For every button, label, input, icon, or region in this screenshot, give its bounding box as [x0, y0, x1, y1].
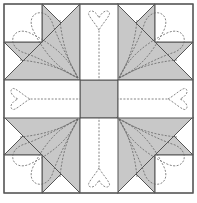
- corner-unit-top-right: [117, 4, 193, 80]
- corner-unit-bottom-right: [117, 117, 193, 193]
- corner-unit-top-left: [4, 4, 80, 80]
- corner-unit-bottom-left: [4, 117, 80, 193]
- quilt-block: [0, 0, 197, 203]
- center-square: [80, 80, 118, 118]
